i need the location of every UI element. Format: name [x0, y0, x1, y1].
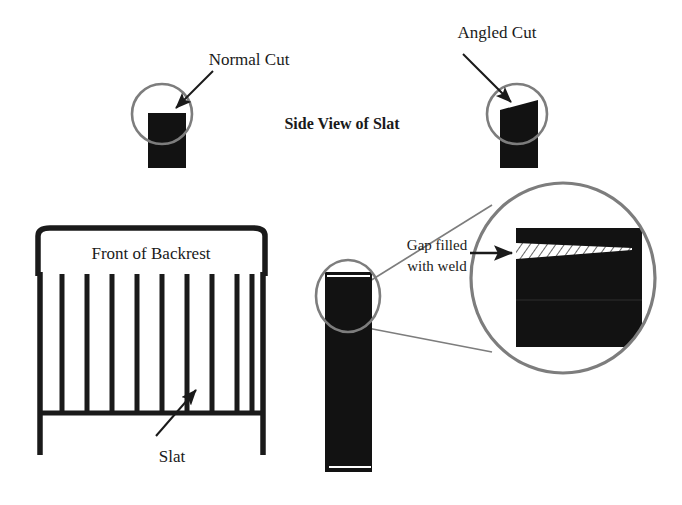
diagram-canvas: Side View of Slat Normal Cut Angled Cut: [0, 0, 682, 505]
detail-magnified-content: [516, 228, 642, 347]
weld-callout-label-line1: Gap filled: [407, 237, 468, 253]
tall-slat-body: [325, 272, 372, 472]
weld-callout-label-line2: with weld: [407, 258, 467, 274]
front-of-backrest-label: Front of Backrest: [92, 244, 211, 263]
normal-cut-label: Normal Cut: [209, 50, 290, 69]
slat-callout-label: Slat: [159, 447, 186, 466]
side-view-title: Side View of Slat: [284, 115, 400, 132]
side-view-title-group: Side View of Slat: [284, 115, 400, 132]
slat-weld-diagram: Side View of Slat Normal Cut Angled Cut: [0, 0, 682, 505]
angled-cut-label: Angled Cut: [458, 23, 537, 42]
normal-cut-slat-block: [148, 113, 186, 168]
angled-cut-slat-block: [500, 100, 538, 168]
